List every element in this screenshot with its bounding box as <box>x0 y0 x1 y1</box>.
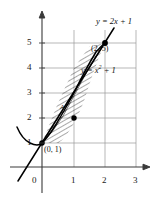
x-tick-label-1: 1 <box>71 176 76 185</box>
up-arrow-icon <box>39 11 45 18</box>
parabola-eq-suffix: + 1 <box>102 65 116 75</box>
right-arrow-icon <box>143 164 150 170</box>
y-tick-label-1: 1 <box>27 138 32 147</box>
y-tick-label-2: 2 <box>27 113 32 122</box>
x-tick-label-3: 3 <box>133 176 138 185</box>
parabola-equation-label: y = x2 + 1 <box>81 64 116 74</box>
region-label-A: A <box>60 104 64 111</box>
point-label-upper: (2, 5) <box>91 45 108 53</box>
graph-canvas <box>0 0 153 201</box>
point-1-2 <box>71 115 76 120</box>
point-label-lower: (0, 1) <box>44 146 61 154</box>
y-tick-label-3: 3 <box>27 88 32 97</box>
parabola-eq-prefix: y = x <box>81 65 99 75</box>
y-tick-label-5: 5 <box>27 38 32 47</box>
y-tick-label-4: 4 <box>27 63 32 72</box>
line-equation-label: y = 2x + 1 <box>96 17 132 26</box>
math-graph-figure: 1 2 3 4 5 0 1 2 3 y = 2x + 1 y = x2 + 1 … <box>0 0 153 201</box>
x-tick-label-0: 0 <box>32 176 37 185</box>
x-tick-label-2: 2 <box>102 176 107 185</box>
